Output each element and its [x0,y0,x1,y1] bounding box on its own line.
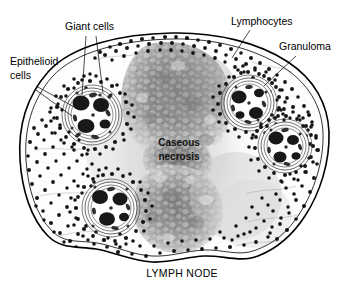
label-lymphocytes: Lymphocytes [231,15,292,27]
label-epithelioid-cells-line1: Epithelioid [10,55,59,67]
lymph-node-illustration: Giant cells Epithelioid cells Lymphocyte… [0,0,344,291]
illustration-canvas: Giant cells Epithelioid cells Lymphocyte… [0,0,344,291]
label-caseous-necrosis-line1: Caseous [158,137,200,148]
label-granuloma: Granuloma [279,40,331,52]
label-caseous-necrosis-line2: necrosis [158,151,200,162]
caption-lymph-node: LYMPH NODE [146,267,218,279]
label-giant-cells: Giant cells [65,20,114,32]
label-epithelioid-cells-line2: cells [10,69,31,81]
